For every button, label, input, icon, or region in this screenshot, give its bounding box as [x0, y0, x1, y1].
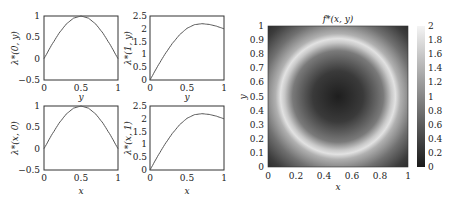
- svg-text:1: 1: [115, 173, 121, 183]
- svg-text:0.6: 0.6: [250, 77, 265, 87]
- svg-text:0.2: 0.2: [428, 148, 442, 158]
- svg-text:1.8: 1.8: [428, 35, 443, 45]
- svg-text:2: 2: [141, 24, 147, 34]
- svg-text:y: y: [183, 92, 190, 102]
- svg-text:f*(x, y): f*(x, y): [322, 14, 354, 24]
- svg-text:0.1: 0.1: [250, 148, 264, 158]
- svg-text:0.5: 0.5: [26, 32, 41, 42]
- svg-text:1: 1: [428, 92, 434, 102]
- plot-lambda-0-y: 1 0.5 0 −0.5 0 0.5 1 y λ*(0, y): [10, 11, 121, 102]
- svg-text:1.2: 1.2: [428, 77, 442, 87]
- svg-text:1: 1: [115, 83, 121, 93]
- svg-text:0.4: 0.4: [317, 171, 332, 181]
- svg-text:1: 1: [141, 49, 147, 59]
- svg-text:0.5: 0.5: [250, 92, 265, 102]
- svg-text:0.8: 0.8: [373, 171, 388, 181]
- svg-text:λ*(0, y): λ*(0, y): [10, 31, 20, 66]
- svg-text:2: 2: [428, 21, 434, 31]
- svg-text:0.6: 0.6: [428, 120, 443, 130]
- svg-text:0.5: 0.5: [180, 173, 195, 183]
- svg-text:1: 1: [221, 83, 227, 93]
- svg-text:0.3: 0.3: [250, 120, 265, 130]
- svg-text:0.8: 0.8: [250, 49, 265, 59]
- svg-text:1: 1: [258, 21, 264, 31]
- svg-text:1: 1: [141, 139, 147, 149]
- svg-text:0.5: 0.5: [133, 152, 148, 162]
- svg-text:1: 1: [405, 171, 411, 181]
- svg-text:0.9: 0.9: [250, 35, 265, 45]
- svg-text:0.5: 0.5: [74, 173, 89, 183]
- svg-text:x: x: [184, 186, 189, 196]
- svg-text:0: 0: [147, 83, 153, 93]
- svg-text:1: 1: [221, 173, 227, 183]
- svg-text:0.4: 0.4: [428, 134, 443, 144]
- colorbar: 00.20.40.60.811.21.41.61.82: [417, 21, 443, 172]
- svg-text:0: 0: [428, 162, 434, 172]
- svg-text:0: 0: [258, 162, 264, 172]
- svg-text:1.4: 1.4: [428, 63, 443, 73]
- svg-text:0: 0: [41, 83, 47, 93]
- svg-text:x: x: [78, 186, 83, 196]
- svg-text:−0.5: −0.5: [18, 165, 40, 175]
- svg-text:2: 2: [141, 114, 147, 124]
- svg-text:1.5: 1.5: [133, 127, 148, 137]
- heatmap-f-x-y: f*(x, y) 00.10.20.30.40.50.60.70.80.91 0…: [238, 14, 411, 192]
- svg-text:0.8: 0.8: [428, 106, 443, 116]
- svg-text:λ*(x, 1): λ*(x, 1): [123, 121, 133, 156]
- svg-text:2.5: 2.5: [133, 101, 148, 111]
- plot-lambda-x-0: 1 0.5 0 −0.5 0 0.5 1 x λ*(x, 0): [10, 101, 121, 196]
- svg-text:0.5: 0.5: [133, 62, 148, 72]
- svg-text:0.4: 0.4: [250, 106, 265, 116]
- svg-text:2.5: 2.5: [133, 11, 148, 21]
- plot-lambda-1-y: 2.5 2 1.5 1 0.5 0 0 0.5 1 y λ*(1, y): [123, 11, 227, 102]
- figure: 1 0.5 0 −0.5 0 0.5 1 y λ*(0, y) 2.5 2 1.…: [0, 0, 452, 202]
- svg-text:0.2: 0.2: [250, 134, 264, 144]
- svg-text:0: 0: [41, 173, 47, 183]
- svg-text:0.5: 0.5: [26, 122, 41, 132]
- svg-text:λ*(1, y): λ*(1, y): [123, 31, 133, 66]
- svg-text:0: 0: [147, 173, 153, 183]
- plot-lambda-x-1: 2.5 2 1.5 1 0.5 0 0 0.5 1 x λ*(x, 1): [123, 101, 227, 196]
- svg-text:y: y: [77, 92, 84, 102]
- svg-text:y: y: [238, 94, 248, 101]
- svg-text:0: 0: [34, 54, 40, 64]
- svg-text:0: 0: [34, 144, 40, 154]
- svg-text:1: 1: [34, 101, 40, 111]
- svg-text:1.5: 1.5: [133, 37, 148, 47]
- svg-text:−0.5: −0.5: [18, 75, 40, 85]
- svg-text:0.6: 0.6: [345, 171, 360, 181]
- svg-text:0.7: 0.7: [250, 63, 265, 73]
- svg-text:λ*(x, 0): λ*(x, 0): [10, 121, 20, 156]
- svg-text:1: 1: [34, 11, 40, 21]
- svg-text:0.2: 0.2: [289, 171, 303, 181]
- svg-text:0: 0: [265, 171, 271, 181]
- svg-text:1.6: 1.6: [428, 49, 443, 59]
- svg-text:x: x: [335, 182, 340, 192]
